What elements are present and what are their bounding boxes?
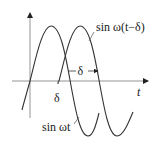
delta-axis-label: δ: [54, 91, 60, 105]
label-sin-wt-minus-delta: sin ω(t−δ): [96, 20, 145, 34]
leader-line-sin-wt-minus-delta: [89, 32, 94, 41]
label-sin-wt: sin ωt: [42, 120, 71, 134]
x-axis-label: t: [137, 85, 141, 99]
phase-shift-diagram: δ sin ω(t−δ) δ t sin ωt: [0, 0, 158, 150]
delta-span-label: δ: [78, 64, 84, 78]
